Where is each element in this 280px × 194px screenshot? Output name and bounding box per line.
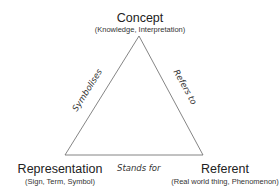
representation-subtitle: (Sign, Term, Symbol) [10, 177, 110, 186]
concept-title: Concept [100, 11, 180, 25]
referent-title: Referent [175, 162, 275, 176]
referent-subtitle: (Real world thing, Phenomenon) [165, 177, 280, 186]
edge-label-stands-for: Stands for [117, 163, 161, 173]
concept-subtitle: (Knowledge, Interpretation) [80, 25, 200, 34]
representation-title: Representation [10, 162, 110, 176]
edge-line-symbolises [65, 36, 139, 155]
